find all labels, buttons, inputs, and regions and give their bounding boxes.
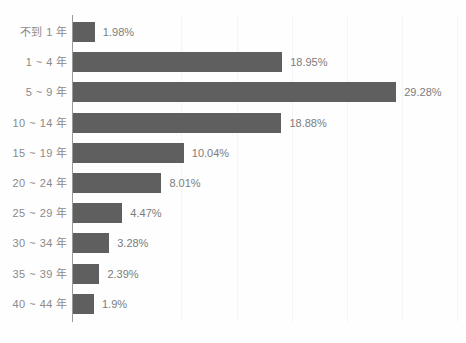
bar[interactable] [73, 203, 122, 223]
bar-row: 40 ~ 44 年1.9% [0, 294, 466, 314]
category-label: 25 ~ 29 年 [12, 203, 68, 223]
bar[interactable] [73, 113, 281, 133]
bar-row: 30 ~ 34 年3.28% [0, 233, 466, 253]
bar[interactable] [73, 143, 184, 163]
category-label: 不到 1 年 [20, 22, 68, 42]
category-label: 40 ~ 44 年 [12, 294, 68, 314]
bar-rows: 不到 1 年1.98%1 ~ 4 年18.95%5 ~ 9 年29.28%10 … [0, 0, 466, 343]
bar[interactable] [73, 82, 396, 102]
category-label: 35 ~ 39 年 [12, 264, 68, 284]
bar-row: 25 ~ 29 年4.47% [0, 203, 466, 223]
bar-value-label: 1.98% [103, 22, 134, 42]
bar-chart: 不到 1 年1.98%1 ~ 4 年18.95%5 ~ 9 年29.28%10 … [0, 0, 466, 343]
bar-row: 20 ~ 24 年8.01% [0, 173, 466, 193]
bar[interactable] [73, 264, 99, 284]
bar-value-label: 10.04% [192, 143, 229, 163]
bar-value-label: 18.95% [290, 52, 327, 72]
bar-row: 15 ~ 19 年10.04% [0, 143, 466, 163]
bar-value-label: 3.28% [117, 233, 148, 253]
bar-value-label: 29.28% [404, 82, 441, 102]
bar-value-label: 4.47% [130, 203, 161, 223]
bar-value-label: 8.01% [169, 173, 200, 193]
bar-row: 10 ~ 14 年18.88% [0, 113, 466, 133]
category-label: 1 ~ 4 年 [26, 52, 68, 72]
bar[interactable] [73, 22, 95, 42]
bar[interactable] [73, 52, 282, 72]
category-label: 30 ~ 34 年 [12, 233, 68, 253]
category-label: 20 ~ 24 年 [12, 173, 68, 193]
bar-row: 5 ~ 9 年29.28% [0, 82, 466, 102]
category-label: 10 ~ 14 年 [12, 113, 68, 133]
category-label: 5 ~ 9 年 [26, 82, 68, 102]
bar[interactable] [73, 233, 109, 253]
bar[interactable] [73, 173, 161, 193]
bar-row: 不到 1 年1.98% [0, 22, 466, 42]
bar-row: 35 ~ 39 年2.39% [0, 264, 466, 284]
bar-value-label: 18.88% [289, 113, 326, 133]
bar-value-label: 1.9% [102, 294, 127, 314]
category-label: 15 ~ 19 年 [12, 143, 68, 163]
bar-value-label: 2.39% [107, 264, 138, 284]
bar-row: 1 ~ 4 年18.95% [0, 52, 466, 72]
bar[interactable] [73, 294, 94, 314]
